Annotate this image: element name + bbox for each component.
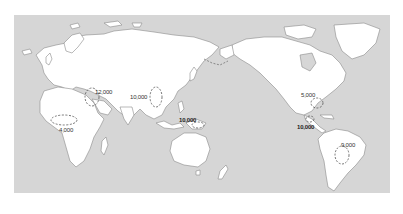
alaska: [220, 45, 234, 59]
label-south-america: 9,000: [341, 142, 355, 148]
canadian-arctic-islands: [284, 25, 316, 39]
novaya-zemlya: [104, 21, 122, 27]
label-fertile-crescent: 12,000: [95, 89, 112, 95]
map-graphic: [14, 15, 390, 193]
label-new-guinea: 10,000: [179, 117, 196, 123]
philippines: [178, 101, 184, 113]
madagascar: [101, 137, 108, 155]
world-map: 12,000 10,000 4,000 10,000 5,000 10,000 …: [14, 15, 390, 193]
greenland: [334, 23, 380, 59]
south-america: [318, 129, 366, 191]
label-mesoamerica: 10,000: [297, 124, 314, 130]
svalbard: [70, 23, 80, 29]
india: [120, 107, 134, 125]
north-america: [232, 37, 346, 115]
label-china: 10,000: [130, 94, 147, 100]
tasmania: [196, 170, 200, 175]
cuba: [320, 115, 334, 119]
new-zealand: [218, 165, 228, 179]
iceland: [22, 49, 32, 55]
severnaya-zemlya: [132, 23, 142, 27]
label-eastern-north-america: 5,000: [301, 92, 315, 98]
bering-route: [204, 59, 228, 65]
australia: [170, 133, 210, 167]
label-africa: 4,000: [59, 127, 73, 133]
